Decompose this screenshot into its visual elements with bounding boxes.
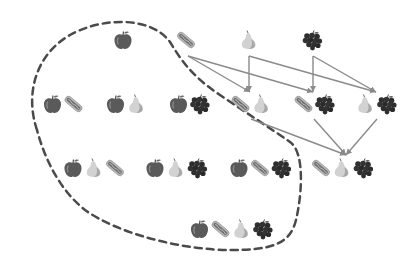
set-node-ag xyxy=(170,95,210,115)
pear-icon xyxy=(169,159,183,178)
set-node-pg xyxy=(358,95,396,115)
grapes-icon xyxy=(190,95,209,115)
grapes-icon xyxy=(188,159,207,179)
grapes-icon xyxy=(354,159,373,179)
set-node-h xyxy=(176,31,196,49)
hotdog-icon xyxy=(211,220,231,238)
set-node-ahpg xyxy=(191,220,273,240)
grapes-icon xyxy=(272,159,291,179)
set-node-ah xyxy=(44,95,83,113)
apple-icon xyxy=(146,160,163,178)
arrows-layer xyxy=(188,56,377,155)
pear-icon xyxy=(234,220,248,239)
set-node-apg xyxy=(146,159,207,179)
grapes-icon xyxy=(253,220,272,240)
apple-sets-dashed-region xyxy=(32,22,301,250)
hotdog-icon xyxy=(176,31,196,49)
hotdog-icon xyxy=(311,159,331,177)
set-node-a xyxy=(114,32,131,50)
hotdog-icon xyxy=(294,95,314,113)
apple-icon xyxy=(44,96,61,114)
set-node-hg xyxy=(294,95,335,115)
set-node-aph xyxy=(64,159,124,178)
diagram-canvas xyxy=(0,0,414,273)
set-node-hpg xyxy=(311,159,373,179)
pear-icon xyxy=(242,31,256,50)
apple-icon xyxy=(64,160,81,178)
apple-icon xyxy=(230,160,247,178)
pear-icon xyxy=(358,95,372,114)
set-node-ahg xyxy=(230,159,291,179)
arrow xyxy=(313,56,376,92)
pear-icon xyxy=(335,159,349,178)
grapes-icon xyxy=(315,95,334,115)
pear-icon xyxy=(254,95,268,114)
subset-lattice-diagram xyxy=(0,0,414,273)
grapes-icon xyxy=(303,31,322,51)
grapes-icon xyxy=(377,95,396,115)
apple-icon xyxy=(170,96,187,114)
set-node-hp xyxy=(231,95,268,114)
hotdog-icon xyxy=(250,159,270,177)
set-node-g xyxy=(303,31,322,51)
pear-icon xyxy=(129,95,143,114)
arrow xyxy=(251,119,346,155)
pear-icon xyxy=(87,159,101,178)
arrow xyxy=(188,56,250,92)
set-node-p xyxy=(242,31,256,50)
apple-icon xyxy=(107,96,124,114)
apple-icon xyxy=(191,221,208,239)
set-node-ap xyxy=(107,95,143,114)
nodes-layer xyxy=(44,31,397,240)
hotdog-icon xyxy=(64,95,84,113)
arrow xyxy=(346,119,377,155)
apple-icon xyxy=(114,32,131,50)
hotdog-icon xyxy=(105,159,125,177)
